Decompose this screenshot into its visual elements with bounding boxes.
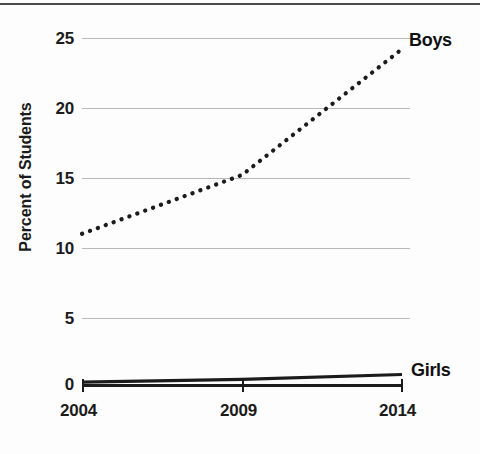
ytick-label-5: 5 bbox=[34, 309, 74, 329]
x-axis-tick-2014 bbox=[401, 379, 403, 392]
xtick-label-2009: 2009 bbox=[220, 401, 257, 421]
x-axis-tick-2004 bbox=[82, 379, 84, 392]
xtick-label-2014: 2014 bbox=[379, 401, 416, 421]
gridline-25 bbox=[82, 38, 410, 39]
ytick-label-15: 15 bbox=[34, 169, 74, 189]
ytick-label-25: 25 bbox=[34, 29, 74, 49]
ytick-label-0: 0 bbox=[34, 375, 74, 395]
gridline-15 bbox=[82, 178, 410, 179]
top-divider-rule bbox=[0, 3, 480, 5]
ytick-label-10: 10 bbox=[34, 239, 74, 259]
series-label-girls: Girls bbox=[411, 360, 451, 381]
series-label-boys: Boys bbox=[409, 30, 452, 51]
plot-area bbox=[82, 30, 410, 390]
x-axis-tick-2009 bbox=[242, 379, 244, 392]
y-axis-title: Percent of Students bbox=[17, 67, 35, 287]
ytick-label-20: 20 bbox=[34, 99, 74, 119]
xtick-label-2004: 2004 bbox=[60, 401, 97, 421]
gridline-20 bbox=[82, 108, 410, 109]
gridline-10 bbox=[82, 248, 410, 249]
gridline-5 bbox=[82, 318, 410, 319]
chart-figure: 25 20 15 10 5 0 Percent of Students 2004… bbox=[0, 0, 480, 454]
